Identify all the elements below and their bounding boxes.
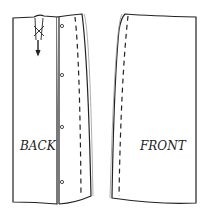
button-3 [60, 125, 63, 128]
front-piece [110, 14, 196, 203]
skirt-pattern-diagram: BACK FRONT [0, 0, 207, 219]
front-label: FRONT [139, 139, 187, 153]
back-piece [13, 14, 93, 204]
button-4 [60, 180, 63, 183]
back-label: BACK [19, 139, 57, 153]
button-2 [60, 73, 63, 76]
button-1 [60, 24, 63, 27]
